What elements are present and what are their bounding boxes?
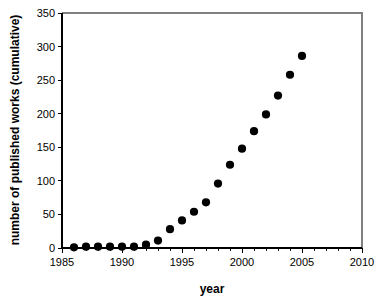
data-point (250, 127, 258, 135)
y-axis-title: number of published works (cumulative) (8, 15, 22, 246)
x-axis-title: year (200, 282, 225, 296)
data-point (262, 110, 270, 118)
data-point (226, 161, 234, 169)
x-tick-label: 1990 (110, 256, 134, 268)
x-tick-label: 2000 (230, 256, 254, 268)
scatter-chart: 050100150200250300350 198519901995200020… (0, 0, 386, 305)
data-point (82, 243, 90, 251)
data-point (202, 198, 210, 206)
data-point (130, 243, 138, 251)
data-point (238, 145, 246, 153)
data-point (274, 91, 282, 99)
data-point (298, 52, 306, 60)
y-tick-label: 150 (37, 141, 55, 153)
data-point (166, 225, 174, 233)
x-tick-label: 2005 (290, 256, 314, 268)
x-tick-label: 2010 (350, 256, 374, 268)
y-tick-label: 250 (37, 74, 55, 86)
y-tick-label: 0 (49, 242, 55, 254)
data-point (286, 71, 294, 79)
x-tick-label: 1985 (50, 256, 74, 268)
data-point (94, 243, 102, 251)
y-tick-label: 50 (43, 208, 55, 220)
data-point (214, 179, 222, 187)
x-tick-label: 1995 (170, 256, 194, 268)
y-tick-label: 200 (37, 108, 55, 120)
data-point (106, 243, 114, 251)
y-tick-label: 100 (37, 175, 55, 187)
y-tick-label: 300 (37, 41, 55, 53)
y-tick-label: 350 (37, 7, 55, 19)
data-point (154, 237, 162, 245)
data-point (190, 208, 198, 216)
data-point (142, 241, 150, 249)
data-point (178, 216, 186, 224)
chart-container: 050100150200250300350 198519901995200020… (0, 0, 386, 305)
data-point (70, 243, 78, 251)
data-point (118, 243, 126, 251)
